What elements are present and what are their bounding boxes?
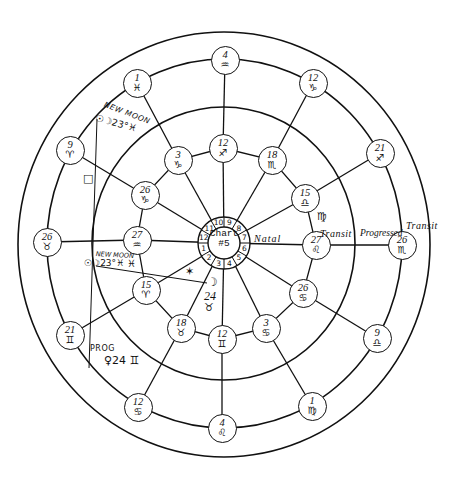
outer-cusp-node: 4♌ [208, 414, 237, 443]
zodiac-sign-icon: ♈ [142, 290, 151, 300]
square-aspect-icon: □ [83, 172, 93, 185]
natal-cusp-node: 12♐ [209, 134, 238, 163]
prog-venus-value: ♀24 ♊ [104, 354, 139, 367]
natal-cusp-node: 12♊ [208, 325, 237, 354]
house-number: 5 [236, 253, 241, 262]
natal-cusp-node: 15♎ [291, 184, 320, 213]
zodiac-sign-icon: ♏ [398, 245, 407, 255]
zodiac-sign-icon: ♓ [133, 83, 142, 93]
house-number: 7 [242, 233, 247, 242]
zodiac-sign-icon: ♒ [221, 60, 230, 70]
zodiac-sign-icon: ♒ [133, 240, 142, 250]
natal-cusp-node: 3♑ [164, 146, 193, 175]
ring-label-transit-outer: Transit [406, 220, 438, 231]
zodiac-sign-icon: ♌ [218, 428, 227, 438]
outer-cusp-node: 4♒ [211, 46, 240, 75]
outer-cusp-node: 12♋ [124, 393, 153, 422]
house-number: 4 [227, 259, 232, 268]
ring-label-transit-inner: Transit [320, 228, 352, 239]
natal-cusp-node: 26♋ [289, 279, 318, 308]
chart-title: Chart #5 [207, 229, 241, 249]
prog-title: PROG [90, 344, 115, 353]
zodiac-sign-icon: ♎ [373, 338, 382, 348]
house-number: 6 [242, 244, 247, 253]
astrology-chart: 1 2 3 4 5 6 7 8 9 10 11 12 Chart #5 27♒ … [0, 0, 467, 485]
zodiac-sign-icon: ♋ [262, 328, 271, 338]
zodiac-sign-icon: ♎ [301, 198, 310, 208]
new-moon-lower-value: ☉☽23°♓ [84, 258, 124, 268]
house-number: 1 [201, 244, 206, 253]
outer-cusp-node: 9♈ [56, 136, 85, 165]
zodiac-sign-icon: ♋ [299, 293, 308, 303]
sextile-aspect-icon: ✶ [185, 265, 194, 278]
new-moon-marker-line [89, 119, 97, 368]
zodiac-sign-icon: ♐ [376, 153, 385, 163]
outer-cusp-node: 21♐ [366, 139, 395, 168]
natal-cusp-node: 15♈ [132, 276, 161, 305]
ring-label-progressed: Progressed [360, 228, 403, 238]
zodiac-sign-icon: ♍ [308, 406, 317, 416]
zodiac-sign-icon: ♊ [66, 335, 75, 345]
natal-cusp-node: 18♏ [258, 146, 287, 175]
zodiac-sign-icon: ♊ [218, 339, 227, 349]
outer-cusp-node: 26♉ [33, 228, 62, 257]
outer-cusp-node: 1♓ [123, 69, 152, 98]
moon-sign-icon: ♉ [204, 301, 214, 314]
chart-title-line2: #5 [207, 239, 241, 249]
natal-cusp-node: 27♒ [123, 226, 152, 255]
house-number: 9 [227, 218, 232, 227]
outer-cusp-node: 21♊ [56, 321, 85, 350]
zodiac-sign-icon: ♉ [43, 242, 52, 252]
outer-cusp-node: 12♑ [299, 69, 328, 98]
moon-icon: ☽ [207, 275, 218, 289]
zodiac-sign-icon: ♌ [312, 245, 321, 255]
outer-cusp-node: 9♎ [363, 324, 392, 353]
zodiac-sign-icon: ♈ [66, 150, 75, 160]
house-number: 10 [214, 218, 224, 227]
house-number: 2 [207, 253, 212, 262]
natal-cusp-node: 18♉ [167, 314, 196, 343]
zodiac-sign-icon: ♐ [219, 148, 228, 158]
house-number: 3 [216, 259, 221, 268]
zodiac-sign-icon: ♑ [141, 195, 150, 205]
natal-cusp-node: 26♑ [131, 181, 160, 210]
ring-label-natal: Natal [254, 233, 281, 244]
zodiac-sign-icon: ♏ [268, 160, 277, 170]
zodiac-sign-icon: ♉ [177, 328, 186, 338]
outer-cusp-node: 1♍ [298, 392, 327, 421]
zodiac-sign-icon: ♑ [309, 83, 318, 93]
intercepted-virgo-icon: ♍ [317, 210, 327, 223]
zodiac-sign-icon: ♋ [134, 407, 143, 417]
natal-cusp-node: 3♋ [252, 314, 281, 343]
zodiac-sign-icon: ♑ [174, 160, 183, 170]
